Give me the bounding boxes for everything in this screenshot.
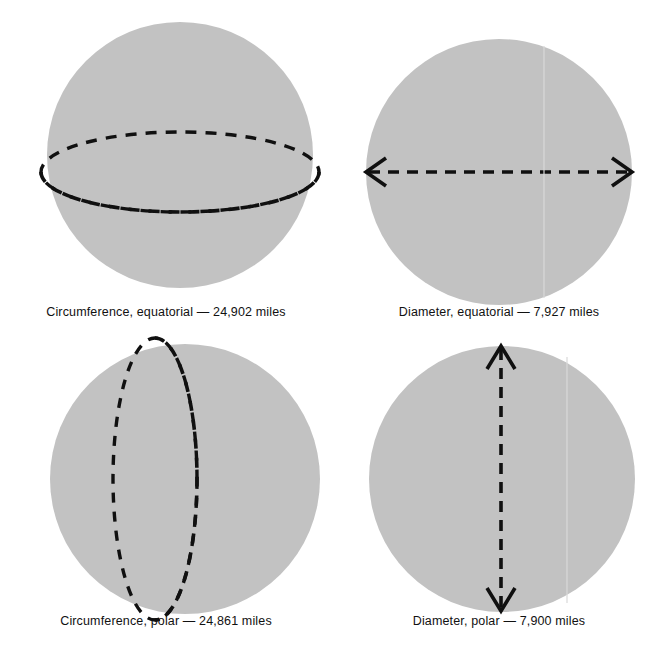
panel-diameter-equatorial: Diameter, equatorial — 7,927 miles [333, 0, 665, 330]
sphere-shape [366, 39, 632, 305]
sphere-polar-diameter-graphic [333, 325, 665, 655]
sphere-shape [369, 346, 635, 612]
caption-diameter-equatorial: Diameter, equatorial — 7,927 miles [333, 305, 665, 319]
panel-circumference-equatorial: Circumference, equatorial — 24,902 miles [0, 0, 332, 330]
earth-dimensions-figure: Circumference, equatorial — 24,902 miles… [0, 0, 665, 661]
sphere-polar-circumference-graphic [0, 325, 332, 655]
caption-circumference-polar: Circumference, polar — 24,861 miles [0, 614, 332, 628]
caption-diameter-polar: Diameter, polar — 7,900 miles [333, 614, 665, 628]
sphere-equatorial-circumference-graphic [0, 0, 332, 330]
panel-diameter-polar: Diameter, polar — 7,900 miles [333, 325, 665, 655]
sphere-equatorial-diameter-graphic [333, 0, 665, 330]
caption-circumference-equatorial: Circumference, equatorial — 24,902 miles [0, 305, 332, 319]
sphere-shape [47, 22, 313, 288]
panel-circumference-polar: Circumference, polar — 24,861 miles [0, 325, 332, 655]
